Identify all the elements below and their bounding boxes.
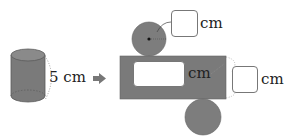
width-answer-box[interactable] — [133, 61, 185, 87]
radius-answer-box[interactable] — [171, 10, 198, 37]
right-arrow-icon — [93, 73, 106, 84]
cylinder — [11, 49, 52, 102]
cylinder-height-label: 5 cm — [49, 70, 86, 85]
height-answer-box[interactable] — [232, 66, 258, 93]
height-unit-label: cm — [261, 72, 284, 87]
bottom-circle — [185, 99, 221, 135]
width-unit-label: cm — [188, 66, 211, 81]
radius-unit-label: cm — [200, 16, 223, 31]
top-circle — [132, 22, 171, 56]
